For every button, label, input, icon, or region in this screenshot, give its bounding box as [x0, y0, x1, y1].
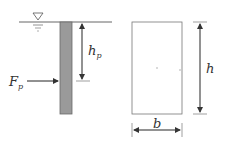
height-label: h [206, 61, 214, 76]
diagram-canvas: hp Fp h b [0, 0, 225, 147]
cross-section-figure: h b [132, 22, 214, 137]
depth-label: hp [88, 43, 102, 60]
width-label: b [153, 116, 161, 131]
depth-dimension: hp [76, 24, 102, 81]
height-dimension: h [193, 22, 214, 114]
force-label: Fp [8, 74, 23, 91]
width-dimension: b [132, 116, 182, 137]
pile-figure: hp Fp [8, 13, 112, 114]
force-arrow: Fp [8, 74, 58, 91]
pile [60, 22, 72, 114]
